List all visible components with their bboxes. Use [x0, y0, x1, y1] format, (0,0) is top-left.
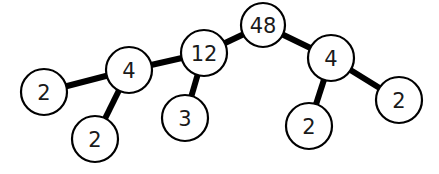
tree-node-2: 2 — [21, 69, 67, 115]
node-label: 48 — [250, 14, 277, 38]
node-label: 12 — [191, 42, 218, 66]
tree-node-4: 4 — [106, 47, 152, 93]
tree-node-12: 12 — [181, 30, 227, 76]
tree-node-2: 2 — [72, 116, 118, 162]
node-label: 2 — [37, 81, 50, 105]
factor-tree-diagram: 48124223422 — [0, 0, 439, 174]
tree-node-3: 3 — [162, 95, 208, 141]
tree-node-48: 48 — [241, 3, 285, 47]
tree-node-2: 2 — [286, 103, 332, 149]
node-label: 3 — [178, 107, 191, 131]
node-label: 4 — [324, 47, 337, 71]
tree-node-2: 2 — [376, 77, 422, 123]
tree-node-4: 4 — [308, 35, 354, 81]
node-label: 2 — [392, 89, 405, 113]
node-label: 4 — [122, 59, 135, 83]
node-label: 2 — [302, 115, 315, 139]
node-label: 2 — [88, 128, 101, 152]
